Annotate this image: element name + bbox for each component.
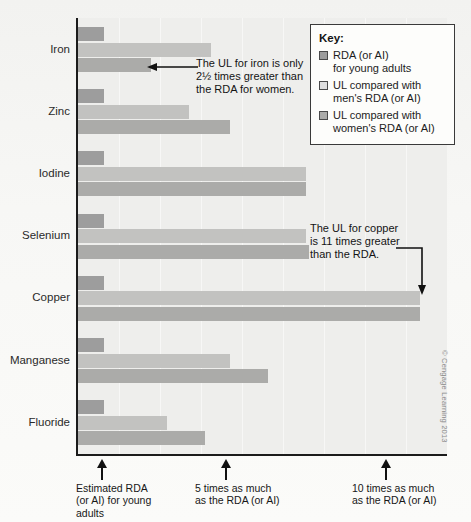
legend-label-ul-women-line1: UL compared with: [333, 109, 421, 121]
legend-label-ul-men: UL compared with men's RDA (or AI): [333, 79, 421, 104]
y-axis-label-iron: Iron: [0, 43, 70, 55]
annotation-copper-arrow-icon: [396, 246, 436, 296]
credit-line: © Cengage Learning 2013: [440, 350, 449, 443]
legend-label-rda: RDA (or AI) for young adults: [333, 49, 411, 74]
legend-label-ul-women: UL compared with women's RDA (or AI): [333, 109, 435, 134]
legend-item-ul-women: UL compared with women's RDA (or AI): [319, 109, 446, 134]
annotation-copper-line1: The UL for copper: [310, 222, 398, 234]
y-axis-label-copper: Copper: [0, 291, 70, 303]
y-axis-label-manganese: Manganese: [0, 354, 70, 366]
y-axis-label-fluoride: Fluoride: [0, 416, 70, 428]
y-axis-label-iodine: Iodine: [0, 167, 70, 179]
annotation-iron-arrow-icon: [146, 60, 200, 74]
x-tick-arrow-3-icon: [378, 459, 394, 481]
x-axis-caption-1-line3: adults: [76, 507, 104, 519]
legend-item-rda: RDA (or AI) for young adults: [319, 49, 446, 74]
x-axis-caption-3-line2: as the RDA (or AI): [352, 494, 437, 506]
x-axis-caption-1-line1: Estimated RDA: [76, 482, 148, 494]
x-axis-caption-1-line2: (or AI) for young: [76, 494, 151, 506]
x-axis-caption-3-line1: 10 times as much: [352, 482, 434, 494]
y-axis-label-selenium: Selenium: [0, 229, 70, 241]
x-tick-arrow-1-icon: [94, 459, 110, 481]
x-axis-caption-2-line2: as the RDA (or AI): [195, 494, 280, 506]
x-axis-caption-1: Estimated RDA (or AI) for young adults: [76, 482, 196, 519]
legend-item-ul-men: UL compared with men's RDA (or AI): [319, 79, 446, 104]
figure-root: IronZincIodineSeleniumCopperManganeseFlu…: [0, 0, 471, 522]
legend-label-rda-line2: for young adults: [333, 62, 411, 74]
legend-swatch-ul-women-icon: [319, 111, 328, 120]
x-axis-caption-3: 10 times as much as the RDA (or AI): [352, 482, 471, 507]
y-axis-label-zinc: Zinc: [0, 105, 70, 117]
annotation-copper-line3: than the RDA.: [310, 248, 379, 260]
legend-label-ul-women-line2: women's RDA (or AI): [333, 122, 435, 134]
annotation-iron: The UL for iron is only 2½ times greater…: [196, 57, 324, 95]
legend-label-rda-line1: RDA (or AI): [333, 49, 389, 61]
annotation-iron-line1: The UL for iron is only: [196, 57, 303, 69]
annotation-iron-line2: 2½ times greater than: [196, 70, 303, 82]
legend-label-ul-men-line2: men's RDA (or AI): [333, 92, 421, 104]
legend-label-ul-men-line1: UL compared with: [333, 79, 421, 91]
annotation-iron-line3: the RDA for women.: [196, 83, 294, 95]
legend-key-box: Key: RDA (or AI) for young adults UL com…: [310, 24, 455, 145]
annotation-copper-line2: is 11 times greater: [310, 235, 400, 247]
legend-title: Key:: [319, 32, 446, 44]
x-axis-caption-2: 5 times as much as the RDA (or AI): [195, 482, 315, 507]
x-tick-arrow-2-icon: [218, 459, 234, 481]
x-axis-caption-2-line1: 5 times as much: [195, 482, 271, 494]
